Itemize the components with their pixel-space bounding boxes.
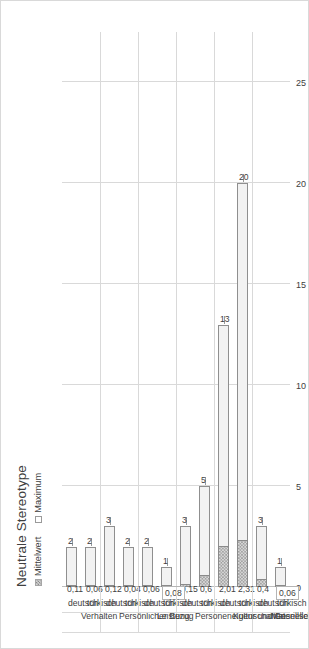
group-separator (176, 32, 177, 587)
group-separator-gutter (138, 587, 139, 633)
bar-maximum (237, 183, 249, 587)
bar-value-label-maximum: 1 (163, 556, 168, 566)
bar-maximum (85, 547, 97, 587)
bar-maximum (180, 526, 192, 587)
bar-value-label-mittelwert: 0,12 (105, 584, 122, 594)
group-separator-gutter (214, 587, 215, 633)
bar-value-label-mittelwert: 0,4 (257, 584, 269, 594)
legend-swatch-mittelwert-icon (35, 579, 42, 586)
plot-area (62, 32, 290, 587)
bar-value-label-maximum: 13 (220, 314, 230, 324)
chart-rotation-stage: Neutrale Stereotype Mittelwert Maximum 0… (0, 0, 309, 649)
bar-value-label-maximum: 2 (144, 536, 149, 546)
x-tick-label-10: 10 (296, 381, 306, 391)
bar-maximum (161, 567, 173, 587)
group-separator-gutter (100, 587, 101, 633)
bar-maximum (256, 526, 268, 587)
x-tick-label-20: 20 (296, 179, 306, 189)
legend-item-mittelwert: Mittelwert (33, 537, 43, 586)
bar-mittelwert (237, 540, 249, 587)
group-separator (138, 32, 139, 587)
group-separator (100, 32, 101, 587)
bar-mittelwert (218, 546, 230, 587)
category-axis-divider (62, 612, 290, 613)
group-separator-gutter (252, 587, 253, 633)
bar-value-label-maximum: 3 (258, 515, 263, 525)
chart-figure: Neutrale Stereotype Mittelwert Maximum 0… (0, 0, 309, 649)
bar-maximum (123, 547, 135, 587)
bar-value-label-maximum: 3 (182, 515, 187, 525)
group-separator (214, 32, 215, 587)
group-separator-gutter (176, 587, 177, 633)
x-tick-label-15: 15 (296, 280, 306, 290)
legend-item-maximum: Maximum (33, 473, 43, 523)
bar-maximum (275, 567, 287, 587)
x-tick-label-25: 25 (296, 78, 306, 88)
legend-label-maximum: Maximum (33, 473, 43, 513)
bar-maximum (104, 526, 116, 587)
bar-value-label-maximum: 1 (277, 556, 282, 566)
group-separator (252, 32, 253, 587)
bar-value-label-maximum: 3 (106, 515, 111, 525)
bar-value-label-maximum: 2 (87, 536, 92, 546)
bar-maximum (199, 486, 211, 587)
bar-value-label-mittelwert: 0,6 (200, 584, 212, 594)
legend-swatch-maximum-icon (35, 516, 42, 523)
category-axis-outer-line (62, 632, 290, 633)
bar-value-label-maximum: 2 (68, 536, 73, 546)
chart-title: Neutrale Stereotype (14, 465, 29, 587)
bar-value-label-mittelwert: 0,11 (67, 584, 83, 594)
bar-value-label-mittelwert: 2,01 (219, 584, 236, 594)
category-label-deutsch: deutsch (68, 598, 98, 608)
bar-maximum (66, 547, 78, 587)
x-tick-label-5: 5 (296, 482, 301, 492)
bar-value-label-mittelwert: 0,06 (143, 584, 160, 594)
legend-label-mittelwert: Mittelwert (33, 537, 43, 576)
bar-value-label-maximum: 2 (125, 536, 130, 546)
bar-value-label-maximum: 5 (201, 475, 206, 485)
bar-value-label-maximum: 20 (239, 172, 249, 182)
bar-maximum (142, 547, 154, 587)
chart-legend: Mittelwert Maximum (33, 473, 43, 586)
